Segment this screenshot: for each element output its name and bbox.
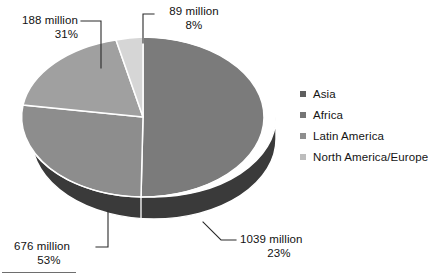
pie-slices — [21, 37, 265, 197]
callout-latin-america-value: 188 million — [4, 14, 78, 28]
legend-label-north-america-europe: North America/Europe — [313, 151, 428, 163]
callout-africa: 676 million 53% — [14, 240, 100, 267]
callout-north-america-europe: 89 million 8% — [157, 5, 231, 32]
legend-item-asia: Asia — [300, 83, 420, 104]
legend-swatch-icon-latin-america — [300, 133, 306, 139]
callout-africa-value: 676 million — [14, 240, 100, 254]
chart-legend: Asia Africa Latin America North America/… — [300, 83, 420, 167]
callout-latin-america-percent: 31% — [4, 28, 78, 42]
leader-line-asia — [203, 222, 236, 240]
callout-asia-value: 1039 million — [240, 233, 340, 247]
legend-item-north-america-europe: North America/Europe — [300, 146, 420, 167]
callout-latin-america: 188 million 31% — [4, 14, 78, 41]
legend-swatch-icon-north-america-europe — [300, 154, 306, 160]
legend-label-asia: Asia — [313, 88, 336, 100]
legend-label-latin-america: Latin America — [313, 130, 384, 142]
legend-swatch-icon-africa — [300, 112, 306, 118]
legend-swatch-icon-asia — [300, 91, 306, 97]
legend-label-africa: Africa — [313, 109, 343, 121]
legend-item-latin-america: Latin America — [300, 125, 420, 146]
callout-asia: 1039 million 23% — [240, 233, 340, 260]
callout-north-america-europe-percent: 8% — [157, 19, 231, 33]
callout-north-america-europe-value: 89 million — [157, 5, 231, 19]
callout-asia-percent: 23% — [240, 247, 318, 261]
callout-africa-percent: 53% — [14, 254, 84, 268]
footer-rule — [2, 272, 76, 273]
legend-item-africa: Africa — [300, 104, 420, 125]
pie-slice-africa — [22, 105, 143, 197]
